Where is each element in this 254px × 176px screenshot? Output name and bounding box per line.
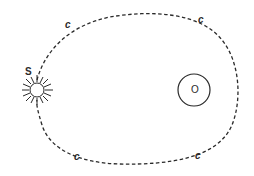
orbit-label-top-left: c [65,20,71,30]
orbit-path [37,14,238,165]
body-label: O [191,85,199,95]
sun-label: S [25,67,32,77]
orbit-label-top-right: c [198,15,204,25]
orbit-label-bottom-left: c [74,152,80,162]
sun-icon [22,75,53,105]
orbit-label-bottom-right: c [195,151,201,161]
orbit-diagram: S O c c c c [0,0,254,176]
